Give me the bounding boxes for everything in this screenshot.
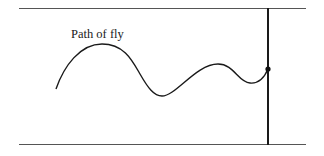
endpoint-dot: [265, 66, 270, 71]
path-label: Path of fly: [71, 27, 124, 42]
fly-path-diagram: Path of fly: [0, 0, 324, 156]
fly-path-curve: [56, 44, 268, 96]
